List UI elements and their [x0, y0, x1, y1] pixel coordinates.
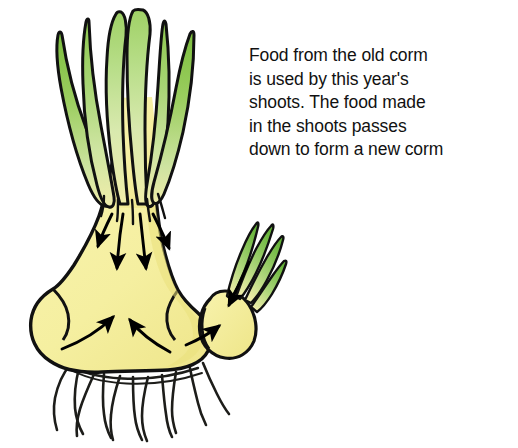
root-strand [203, 363, 229, 414]
root-strand [133, 377, 142, 440]
caption-line-4: in the shoots passes [249, 115, 501, 139]
vein-line [132, 200, 133, 224]
caption-line-1: Food from the old corm [249, 44, 501, 68]
corm-diagram-figure: Food from the old corm is used by this y… [0, 0, 518, 448]
caption-text-block: Food from the old corm is used by this y… [249, 44, 501, 162]
root-strand [54, 365, 70, 430]
root-strand [162, 375, 172, 437]
caption-line-5: down to form a new corm [249, 138, 501, 162]
root-strand [142, 377, 148, 441]
roots-group [54, 362, 229, 441]
vein-line [117, 199, 118, 221]
caption-line-2: is used by this year's [249, 68, 501, 92]
root-strand [111, 376, 120, 440]
caption-line-3: shoots. The food made [249, 91, 501, 115]
new-corm-group [186, 223, 286, 359]
